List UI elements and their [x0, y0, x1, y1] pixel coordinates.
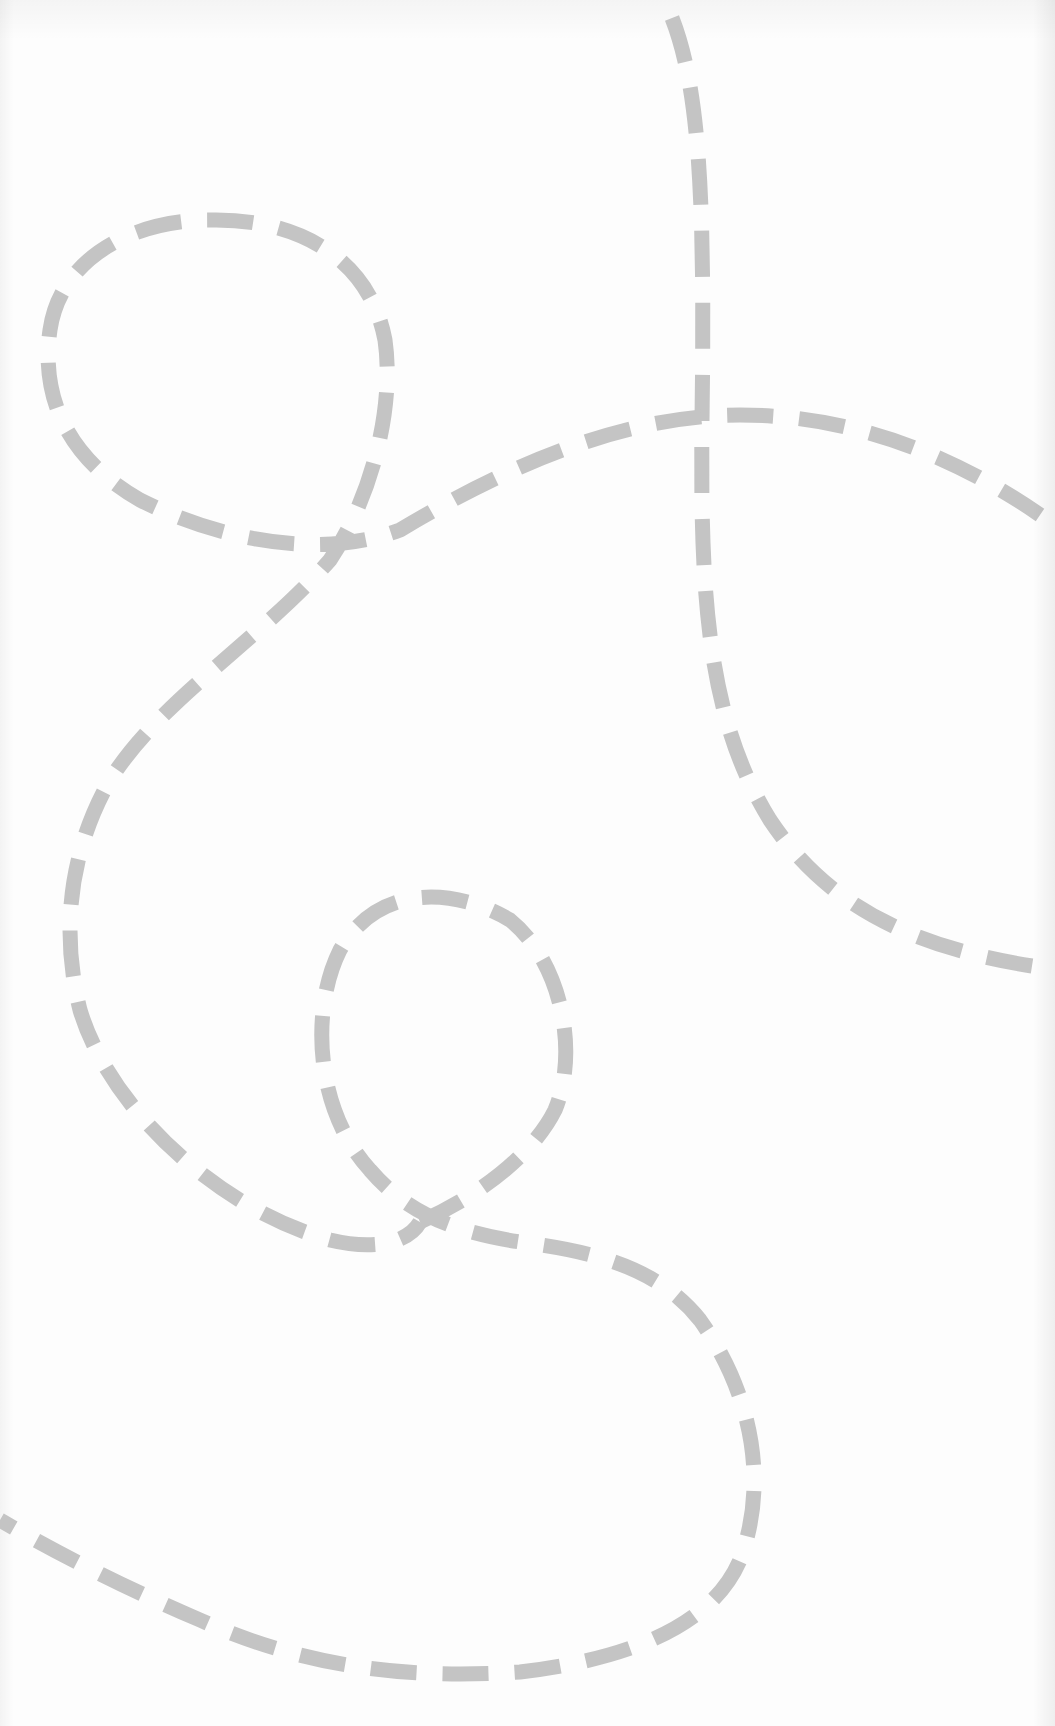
dashed-path-top-loop [48, 220, 1040, 1245]
dashed-tracing-paths [0, 0, 1055, 1726]
worksheet-page: scanned tracing worksheet [0, 0, 1055, 1726]
dashed-path-vertical [672, 18, 1045, 968]
dashed-path-lower-loop [0, 897, 754, 1674]
